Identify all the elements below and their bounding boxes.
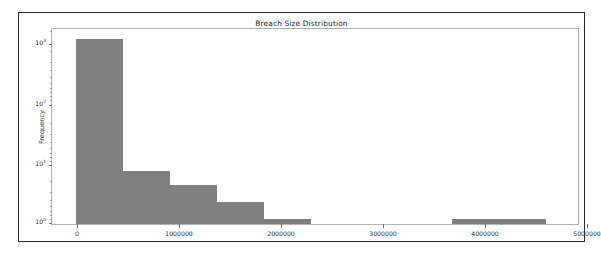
chart-title: Breach Size Distribution xyxy=(19,19,584,28)
histogram-bar xyxy=(170,185,217,224)
x-tick-label: 4000000 xyxy=(471,230,499,237)
x-tickmark-icon xyxy=(587,224,588,228)
plot-axes: Frequency 103 102 101 100 xyxy=(51,28,579,225)
histogram-bar xyxy=(452,219,499,224)
x-tickmark-icon xyxy=(179,224,180,228)
x-tickmark-icon xyxy=(281,224,282,228)
x-tick-label: 0 xyxy=(75,230,79,237)
x-tick-label: 2000000 xyxy=(267,230,295,237)
y-tick-label: 100 xyxy=(35,218,46,225)
bars-container xyxy=(52,29,578,224)
y-tick-label: 102 xyxy=(35,100,46,107)
x-tick-label: 5000000 xyxy=(573,230,601,237)
x-tick-label: 3000000 xyxy=(369,230,397,237)
y-tick-label: 103 xyxy=(35,39,46,46)
x-tickmark-icon xyxy=(383,224,384,228)
histogram-bar xyxy=(264,219,311,224)
y-axis-label: Frequency xyxy=(38,109,46,143)
x-tickmark-icon xyxy=(485,224,486,228)
figure-canvas: Breach Size Distribution Frequency 103 1… xyxy=(18,12,585,242)
x-tickmark-icon xyxy=(77,224,78,228)
y-tick-label: 101 xyxy=(35,160,46,167)
x-tick-label: 1000000 xyxy=(165,230,193,237)
histogram-bar xyxy=(76,39,123,224)
histogram-bar xyxy=(123,171,170,224)
histogram-bar xyxy=(217,202,264,224)
histogram-bar xyxy=(499,219,546,224)
